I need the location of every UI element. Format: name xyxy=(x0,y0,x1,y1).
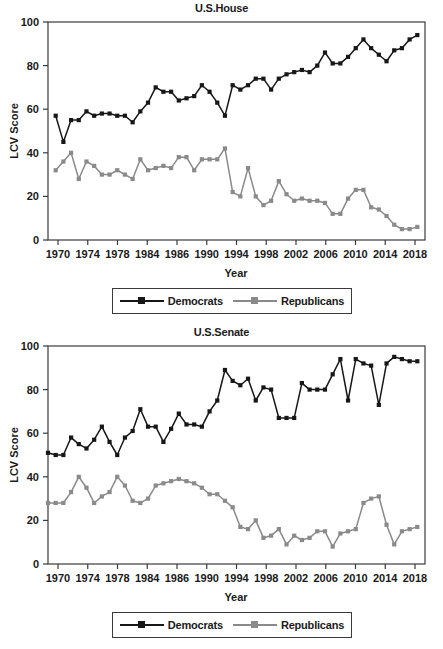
data-point-republicans xyxy=(154,166,158,170)
data-point-democrats xyxy=(246,83,250,87)
data-point-republicans xyxy=(200,486,204,490)
y-tick-label: 20 xyxy=(27,190,39,202)
y-axis-house: 020406080100 xyxy=(21,16,48,246)
data-point-republicans xyxy=(184,479,188,483)
x-tick-label: 2010 xyxy=(343,248,367,260)
data-point-democrats xyxy=(84,109,88,113)
y-tick-label: 100 xyxy=(21,16,39,28)
data-point-republicans xyxy=(77,475,81,479)
data-point-republicans xyxy=(123,173,127,177)
data-point-democrats xyxy=(223,114,227,118)
data-point-democrats xyxy=(323,388,327,392)
data-point-republicans xyxy=(107,173,111,177)
data-point-republicans xyxy=(400,227,404,231)
data-point-republicans xyxy=(323,529,327,533)
x-tick-label: 2014 xyxy=(373,248,398,260)
data-point-democrats xyxy=(400,46,404,50)
data-point-democrats xyxy=(284,72,288,76)
data-point-republicans xyxy=(200,157,204,161)
data-point-democrats xyxy=(246,377,250,381)
data-point-republicans xyxy=(315,529,319,533)
data-point-republicans xyxy=(161,164,165,168)
x-tick-label: 1986 xyxy=(165,572,189,584)
x-axis-title-house: Year xyxy=(224,267,248,279)
data-point-democrats xyxy=(61,453,65,457)
legend-house: Democrats Republicans xyxy=(112,288,352,314)
data-point-republicans xyxy=(361,188,365,192)
data-point-democrats xyxy=(254,398,258,402)
data-point-democrats xyxy=(415,359,419,363)
data-point-democrats xyxy=(346,55,350,59)
data-point-democrats xyxy=(146,101,150,105)
data-point-republicans xyxy=(331,544,335,548)
x-axis-title-senate: Year xyxy=(224,591,248,603)
data-point-republicans xyxy=(307,536,311,540)
x-tick-label: 1970 xyxy=(46,572,70,584)
data-point-republicans xyxy=(146,168,150,172)
data-point-republicans xyxy=(277,527,281,531)
data-point-democrats xyxy=(261,385,265,389)
data-point-democrats xyxy=(269,388,273,392)
data-point-democrats xyxy=(392,355,396,359)
data-point-democrats xyxy=(277,416,281,420)
data-point-democrats xyxy=(77,118,81,122)
data-point-republicans xyxy=(277,179,281,183)
plot-frame-senate xyxy=(48,346,425,564)
data-point-democrats xyxy=(292,70,296,74)
y-tick-label: 0 xyxy=(33,558,39,570)
data-point-democrats xyxy=(184,96,188,100)
data-point-democrats xyxy=(192,94,196,98)
data-point-democrats xyxy=(300,68,304,72)
data-point-democrats xyxy=(161,440,165,444)
data-point-republicans xyxy=(254,518,258,522)
data-point-republicans xyxy=(315,199,319,203)
data-point-democrats xyxy=(392,48,396,52)
x-tick-label: 1990 xyxy=(195,248,219,260)
data-point-democrats xyxy=(115,114,119,118)
data-point-democrats xyxy=(338,61,342,65)
data-point-republicans xyxy=(146,497,150,501)
x-axis-senate: 1970197419781984198619901994199820022006… xyxy=(46,564,427,584)
x-tick-label: 1986 xyxy=(165,248,189,260)
legend-line-democrats-icon xyxy=(120,619,164,631)
data-point-republicans xyxy=(392,223,396,227)
data-point-democrats xyxy=(92,438,96,442)
data-point-democrats xyxy=(361,37,365,41)
legend-line-democrats-icon xyxy=(120,295,164,307)
data-point-republicans xyxy=(61,159,65,163)
data-point-republicans xyxy=(384,214,388,218)
legend-line-republicans-icon xyxy=(233,619,277,631)
x-tick-label: 1978 xyxy=(105,572,129,584)
y-axis-title-senate: LCV Score xyxy=(8,427,20,483)
data-point-democrats xyxy=(307,70,311,74)
data-point-democrats xyxy=(307,388,311,392)
data-point-democrats xyxy=(69,118,73,122)
x-tick-label: 2002 xyxy=(284,572,308,584)
y-axis-senate: 020406080100 xyxy=(21,340,48,570)
data-point-republicans xyxy=(269,534,273,538)
data-point-republicans xyxy=(115,168,119,172)
data-point-democrats xyxy=(369,364,373,368)
data-point-republicans xyxy=(354,527,358,531)
data-point-republicans xyxy=(331,212,335,216)
x-tick-label: 2014 xyxy=(373,572,398,584)
data-point-republicans xyxy=(107,490,111,494)
data-point-republicans xyxy=(292,199,296,203)
x-tick-label: 2018 xyxy=(403,248,427,260)
data-point-democrats xyxy=(131,429,135,433)
data-point-democrats xyxy=(369,46,373,50)
data-point-democrats xyxy=(323,50,327,54)
x-tick-label: 2006 xyxy=(314,248,338,260)
data-point-republicans xyxy=(69,490,73,494)
plot-frame-house xyxy=(48,22,425,240)
x-tick-label: 1984 xyxy=(135,572,160,584)
data-point-republicans xyxy=(231,190,235,194)
data-point-republicans xyxy=(254,194,258,198)
data-point-democrats xyxy=(69,435,73,439)
data-point-republicans xyxy=(92,164,96,168)
data-point-republicans xyxy=(184,155,188,159)
data-point-democrats xyxy=(277,77,281,81)
data-point-democrats xyxy=(223,368,227,372)
data-point-democrats xyxy=(354,46,358,50)
x-tick-label: 2006 xyxy=(314,572,338,584)
